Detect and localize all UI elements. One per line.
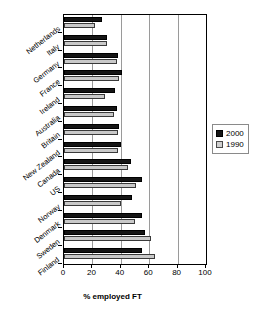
bar-group bbox=[64, 159, 206, 177]
bar-2000 bbox=[64, 106, 117, 111]
x-tick-label-100: 100 bbox=[193, 268, 217, 277]
bar-group bbox=[64, 17, 206, 35]
category-tick bbox=[58, 192, 62, 193]
x-tick-label-40: 40 bbox=[108, 268, 132, 277]
bar-group bbox=[64, 106, 206, 124]
bar-1990 bbox=[64, 94, 105, 99]
category-tick bbox=[58, 139, 62, 140]
category-tick bbox=[58, 85, 62, 86]
legend-item-1990[interactable]: 1990 bbox=[216, 139, 244, 150]
bar-1990 bbox=[64, 41, 107, 46]
legend-label-1990: 1990 bbox=[226, 140, 244, 149]
category-tick bbox=[58, 227, 62, 228]
bar-1990 bbox=[64, 59, 117, 64]
plot-area bbox=[63, 14, 207, 265]
bar-2000 bbox=[64, 17, 102, 22]
bar-2000 bbox=[64, 230, 145, 235]
category-tick bbox=[58, 103, 62, 104]
bar-1990 bbox=[64, 219, 135, 224]
bar-2000 bbox=[64, 195, 132, 200]
value-axis-ticks: 020406080100 bbox=[63, 264, 205, 276]
bar-1990 bbox=[64, 254, 155, 259]
bar-group bbox=[64, 35, 206, 53]
bar-group bbox=[64, 213, 206, 231]
chart-legend: 2000 1990 bbox=[212, 124, 249, 154]
category-tick bbox=[58, 156, 62, 157]
x-axis-title: % employed FT bbox=[0, 292, 225, 301]
bar-1990 bbox=[64, 130, 118, 135]
category-tick bbox=[58, 50, 62, 51]
bar-1990 bbox=[64, 23, 95, 28]
bars-layer bbox=[64, 15, 206, 264]
bar-group bbox=[64, 53, 206, 71]
category-tick bbox=[58, 210, 62, 211]
legend-item-2000[interactable]: 2000 bbox=[216, 128, 244, 139]
category-tick bbox=[58, 121, 62, 122]
bar-2000 bbox=[64, 124, 119, 129]
bar-2000 bbox=[64, 159, 131, 164]
x-tick-label-80: 80 bbox=[165, 268, 189, 277]
legend-swatch-1990 bbox=[216, 141, 223, 148]
category-tick bbox=[58, 245, 62, 246]
category-tick bbox=[58, 67, 62, 68]
x-tick-label-60: 60 bbox=[136, 268, 160, 277]
bar-1990 bbox=[64, 112, 114, 117]
bar-1990 bbox=[64, 76, 119, 81]
bar-1990 bbox=[64, 201, 121, 206]
bar-2000 bbox=[64, 35, 107, 40]
bar-1990 bbox=[64, 183, 136, 188]
bar-2000 bbox=[64, 142, 121, 147]
bar-group bbox=[64, 230, 206, 248]
bar-2000 bbox=[64, 177, 142, 182]
legend-label-2000: 2000 bbox=[226, 129, 244, 138]
bar-chart-figure: NetherlandsItalyGermanyFranceIrelandAust… bbox=[0, 0, 265, 319]
bar-2000 bbox=[64, 70, 122, 75]
bar-2000 bbox=[64, 53, 118, 58]
bar-group bbox=[64, 195, 206, 213]
bar-group bbox=[64, 124, 206, 142]
bar-1990 bbox=[64, 165, 128, 170]
bar-1990 bbox=[64, 148, 118, 153]
category-axis-labels: NetherlandsItalyGermanyFranceIrelandAust… bbox=[0, 0, 63, 290]
bar-group bbox=[64, 88, 206, 106]
category-tick bbox=[58, 174, 62, 175]
bar-group bbox=[64, 70, 206, 88]
bar-2000 bbox=[64, 88, 115, 93]
x-tick-label-0: 0 bbox=[51, 268, 75, 277]
x-tick-label-20: 20 bbox=[79, 268, 103, 277]
bar-2000 bbox=[64, 248, 142, 253]
bar-group bbox=[64, 142, 206, 160]
legend-swatch-2000 bbox=[216, 130, 223, 137]
category-tick bbox=[58, 263, 62, 264]
bar-group bbox=[64, 177, 206, 195]
bar-1990 bbox=[64, 236, 151, 241]
category-tick bbox=[58, 32, 62, 33]
bar-2000 bbox=[64, 213, 142, 218]
